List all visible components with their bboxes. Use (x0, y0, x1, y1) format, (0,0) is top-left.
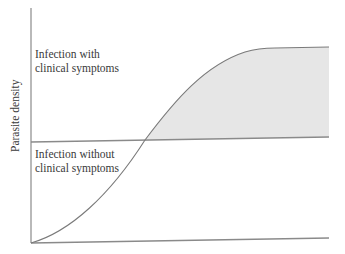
label-infection-with-symptoms-line1: Infection with (35, 47, 100, 61)
label-infection-with-symptoms-line2: clinical symptoms (35, 61, 119, 75)
y-axis-label: Parasite density (9, 80, 21, 153)
clinical-symptoms-shaded-area (145, 47, 329, 140)
parasite-density-diagram (0, 0, 345, 254)
x-axis (31, 238, 329, 243)
label-infection-without-symptoms-line1: Infection without (35, 147, 115, 161)
label-infection-without-symptoms-line2: clinical symptoms (35, 161, 119, 175)
